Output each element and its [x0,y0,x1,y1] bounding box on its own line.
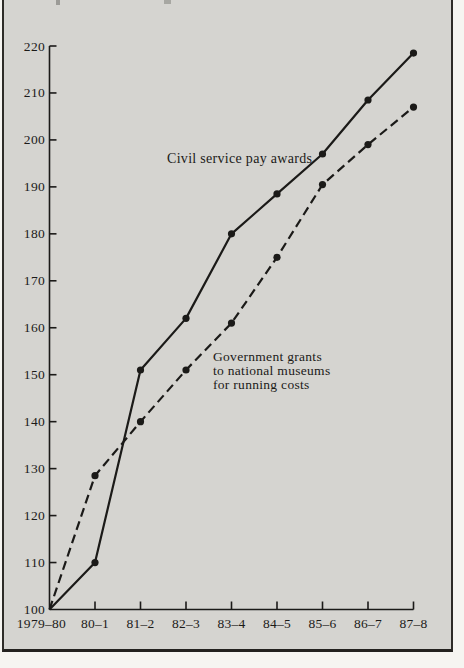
series-label-civil-service-pay-awards: Civil service pay awards [167,151,312,167]
y-tick-label: 160 [24,320,45,335]
y-tick-label: 170 [24,273,45,288]
x-tick-label: 86–7 [354,616,382,631]
data-point [228,319,235,326]
data-point [91,472,98,479]
series-label-government-grants: Government grants to national museums fo… [213,350,330,391]
y-tick-label: 220 [24,39,45,54]
x-tick-label: 84–5 [263,616,291,631]
y-tick-label: 150 [24,367,45,382]
data-point [273,190,280,197]
data-point [137,418,144,425]
x-tick-label: 81–2 [126,616,154,631]
x-tick-label: 82–3 [172,616,200,631]
x-tick-label: 87–8 [399,616,427,631]
y-tick-label: 210 [24,85,45,100]
data-point [273,254,280,261]
data-point [319,181,326,188]
y-tick-label: 140 [24,414,45,429]
data-point [137,366,144,373]
x-tick-label: 85–6 [308,616,336,631]
x-tick-label: 83–4 [217,616,245,631]
x-tick-label: 1979–80 [17,616,66,631]
y-tick-label: 190 [24,179,45,194]
data-point [319,150,326,157]
y-tick-label: 200 [24,132,45,147]
data-point [364,141,371,148]
y-tick-label: 110 [24,555,45,570]
data-point [91,559,98,566]
y-tick-label: 180 [24,226,45,241]
chart-layer: 1001101201301401501601701801902002102201… [17,39,428,631]
series-line-solid [50,53,414,609]
data-point [410,103,417,110]
data-point [182,315,189,322]
data-point [228,230,235,237]
x-tick-label: 80–1 [81,616,109,631]
data-point [182,366,189,373]
data-point [364,96,371,103]
y-tick-label: 120 [24,508,45,523]
data-point [410,49,417,56]
line-chart: 1001101201301401501601701801902002102201… [0,0,464,668]
y-tick-label: 130 [24,461,45,476]
